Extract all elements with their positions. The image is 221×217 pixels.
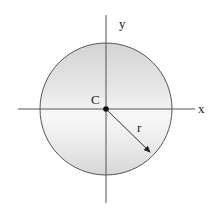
center-point [103,106,109,112]
circle-diagram: C r x y [0,0,221,217]
radius-label: r [137,120,142,135]
y-axis-label: y [119,16,126,31]
center-label: C [91,92,100,107]
x-axis-label: x [198,101,205,116]
